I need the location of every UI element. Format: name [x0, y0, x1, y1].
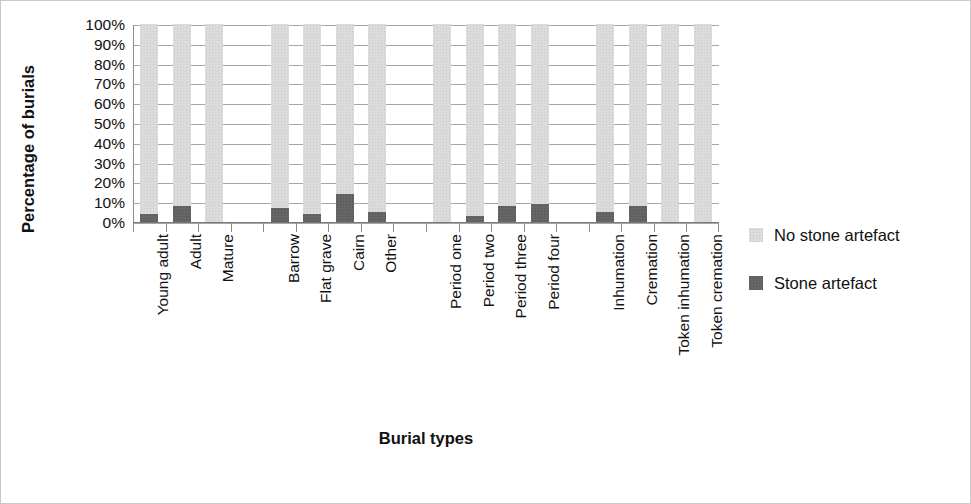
x-axis-category-label: Period one	[448, 234, 464, 309]
y-axis-tick-label: 40%	[94, 136, 125, 152]
y-axis-tick-label: 30%	[94, 156, 125, 172]
x-axis-tick	[718, 223, 719, 232]
bar-segment-no-stone-artefact[interactable]	[694, 24, 712, 222]
x-axis-ticks	[133, 223, 719, 232]
bar-stack[interactable]	[694, 25, 712, 222]
bar-segment-stone-artefact[interactable]	[531, 204, 549, 222]
x-axis-category-labels: Young adultAdultMatureBarrowFlat graveCa…	[133, 234, 719, 424]
bar-segment-no-stone-artefact[interactable]	[271, 24, 289, 208]
y-axis-tick-label: 50%	[94, 116, 125, 132]
y-axis-line	[133, 25, 134, 223]
bar-segment-stone-artefact[interactable]	[173, 206, 191, 222]
bar-segment-stone-artefact[interactable]	[629, 206, 647, 222]
x-axis-category-label: Token inhumation	[676, 234, 692, 356]
bar-segment-no-stone-artefact[interactable]	[596, 24, 614, 212]
bar-segment-no-stone-artefact[interactable]	[303, 24, 321, 214]
y-axis-tick-label: 90%	[94, 37, 125, 53]
x-axis-category-label: Barrow	[286, 234, 302, 283]
x-axis-category-label: Flat grave	[318, 234, 334, 303]
legend-label: Stone artefact	[774, 274, 877, 293]
x-axis-category-label: Token cremation	[709, 234, 725, 348]
x-axis-category-label: Young adult	[155, 234, 171, 315]
bar-segment-stone-artefact[interactable]	[271, 208, 289, 222]
bar-segment-stone-artefact[interactable]	[140, 214, 158, 222]
bar-stack[interactable]	[303, 25, 321, 222]
y-axis-tick-label: 10%	[94, 195, 125, 211]
x-axis-category-label: Period two	[481, 234, 497, 307]
bar-stack[interactable]	[173, 25, 191, 222]
y-axis-tick-label: 20%	[94, 176, 125, 192]
bar-stack[interactable]	[205, 25, 223, 222]
x-axis-tick	[296, 223, 297, 232]
bar-segment-no-stone-artefact[interactable]	[140, 24, 158, 214]
x-axis-tick	[166, 223, 167, 232]
x-axis-tick	[524, 223, 525, 232]
x-axis-title: Burial types	[133, 429, 719, 448]
bar-segment-stone-artefact[interactable]	[498, 206, 516, 222]
plot-area	[133, 25, 719, 223]
bar-stack[interactable]	[466, 25, 484, 222]
bar-stack[interactable]	[596, 25, 614, 222]
bar-stack[interactable]	[140, 25, 158, 222]
bar-segment-stone-artefact[interactable]	[368, 212, 386, 222]
x-axis-tick	[426, 223, 427, 232]
x-axis-category-label: Period four	[546, 234, 562, 310]
legend-swatch-icon	[749, 276, 763, 290]
bar-segment-stone-artefact[interactable]	[336, 194, 354, 222]
bar-segment-no-stone-artefact[interactable]	[498, 24, 516, 206]
x-axis-tick	[328, 223, 329, 232]
x-axis-tick	[621, 223, 622, 232]
x-axis-tick	[491, 223, 492, 232]
bar-segment-no-stone-artefact[interactable]	[336, 24, 354, 194]
x-axis-category-label: Adult	[188, 234, 204, 269]
bar-segment-stone-artefact[interactable]	[596, 212, 614, 222]
x-axis-category-label: Period three	[513, 234, 529, 318]
bar-segment-no-stone-artefact[interactable]	[466, 24, 484, 216]
bar-stack[interactable]	[661, 25, 679, 222]
y-axis-tick-label: 60%	[94, 96, 125, 112]
legend-item[interactable]: No stone artefact	[749, 222, 964, 248]
y-axis-title: Percentage of burials	[11, 29, 45, 269]
bar-stack[interactable]	[271, 25, 289, 222]
x-axis-tick	[133, 223, 134, 232]
bar-stack[interactable]	[498, 25, 516, 222]
x-axis-tick	[686, 223, 687, 232]
x-axis-tick	[198, 223, 199, 232]
bar-segment-no-stone-artefact[interactable]	[173, 24, 191, 206]
y-axis-tick-labels: 100%90%80%70%60%50%40%30%20%10%0%	[57, 20, 129, 228]
bar-segment-no-stone-artefact[interactable]	[531, 24, 549, 204]
y-axis-tick-label: 80%	[94, 57, 125, 73]
bar-segment-no-stone-artefact[interactable]	[205, 24, 223, 222]
y-axis-tick-label: 70%	[94, 77, 125, 93]
bar-segment-no-stone-artefact[interactable]	[629, 24, 647, 206]
bar-stack[interactable]	[368, 25, 386, 222]
x-axis-tick	[231, 223, 232, 232]
bar-segment-no-stone-artefact[interactable]	[433, 24, 451, 222]
bar-stack[interactable]	[629, 25, 647, 222]
x-axis-category-label: Inhumation	[611, 234, 627, 311]
chart-container: Percentage of burials 100%90%80%70%60%50…	[0, 0, 971, 504]
y-axis-tick-label: 100%	[85, 17, 125, 33]
x-axis-tick	[393, 223, 394, 232]
legend-label: No stone artefact	[774, 226, 900, 245]
legend-swatch-icon	[749, 228, 763, 242]
x-axis-tick	[556, 223, 557, 232]
x-axis-tick	[654, 223, 655, 232]
bar-stack[interactable]	[336, 25, 354, 222]
legend-item[interactable]: Stone artefact	[749, 270, 964, 296]
x-axis-category-label: Other	[383, 234, 399, 273]
bar-stack[interactable]	[531, 25, 549, 222]
chart-legend: No stone artefactStone artefact	[749, 222, 964, 318]
x-axis-tick	[589, 223, 590, 232]
x-axis-category-label: Mature	[220, 234, 236, 282]
x-axis-tick	[361, 223, 362, 232]
x-axis-category-label: Cairn	[351, 234, 367, 271]
bar-segment-stone-artefact[interactable]	[303, 214, 321, 222]
bar-segment-no-stone-artefact[interactable]	[661, 24, 679, 222]
x-axis-tick	[459, 223, 460, 232]
y-axis-tick-label: 0%	[103, 215, 125, 231]
bar-stack[interactable]	[433, 25, 451, 222]
x-axis-category-label: Cremation	[644, 234, 660, 306]
x-axis-tick	[263, 223, 264, 232]
bar-segment-no-stone-artefact[interactable]	[368, 24, 386, 212]
